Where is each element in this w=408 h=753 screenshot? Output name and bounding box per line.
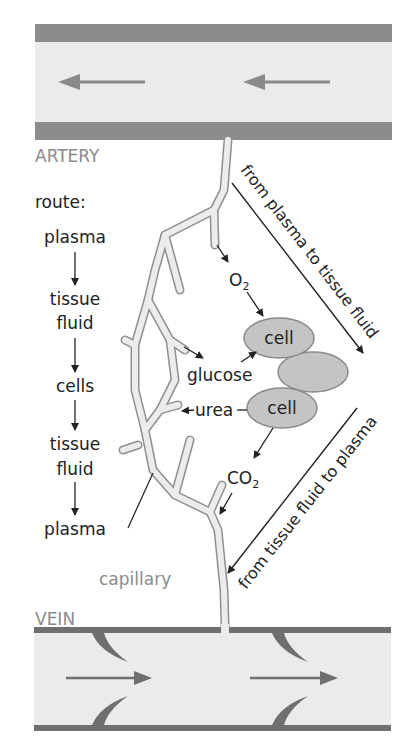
cell-bottom-label: cell xyxy=(267,398,296,418)
vein-wall-bottom xyxy=(34,725,391,731)
artery xyxy=(35,24,392,140)
capillary-vein-junction xyxy=(221,624,229,634)
oxygen-exchange: O2 xyxy=(217,245,263,316)
artery-label: ARTERY xyxy=(35,146,100,166)
cells: cell cell xyxy=(244,318,348,428)
route-step-fluid-2: fluid xyxy=(57,459,94,479)
artery-wall-top xyxy=(35,24,392,42)
route-step-plasma: plasma xyxy=(44,227,106,247)
vein-lumen xyxy=(34,631,391,729)
co2-exchange: CO2 xyxy=(220,428,273,514)
plasma-to-tissue-label: from plasma to tissue fluid xyxy=(237,161,383,342)
urea-label: urea xyxy=(195,400,233,420)
oxygen-label: O2 xyxy=(229,270,249,293)
route-step-fluid: fluid xyxy=(57,313,94,333)
artery-wall-bottom xyxy=(35,122,392,140)
vein-wall-top xyxy=(34,627,391,633)
urea-exchange: urea xyxy=(182,400,247,420)
glucose-label: glucose xyxy=(187,365,252,385)
vein-label: VEIN xyxy=(35,609,75,629)
route-step-cells: cells xyxy=(56,376,94,396)
co2-label: CO2 xyxy=(227,468,259,491)
route-column: route: plasma tissue fluid cells tissue … xyxy=(35,192,106,539)
route-title: route: xyxy=(35,192,86,212)
arrow-icon xyxy=(241,352,256,362)
tissue-to-plasma-label: from tissue fluid to plasma xyxy=(234,412,381,592)
arrow-icon xyxy=(217,245,228,262)
capillary-leader-line xyxy=(128,473,153,528)
route-step-tissue: tissue xyxy=(50,289,100,309)
arrow-icon xyxy=(247,292,263,316)
vein xyxy=(34,624,391,731)
route-step-plasma-2: plasma xyxy=(44,519,106,539)
direction-tissue-to-plasma: from tissue fluid to plasma xyxy=(228,408,381,592)
route-step-tissue-2: tissue xyxy=(50,434,100,454)
arrow-icon xyxy=(254,428,273,458)
arrow-icon xyxy=(182,410,194,411)
capillary-exchange-diagram: ARTERY route: p xyxy=(0,0,408,753)
glucose-exchange: glucose xyxy=(184,347,256,385)
capillary-label: capillary xyxy=(99,569,171,589)
cell-top-label: cell xyxy=(264,328,293,348)
direction-arrow-icon xyxy=(228,408,357,573)
